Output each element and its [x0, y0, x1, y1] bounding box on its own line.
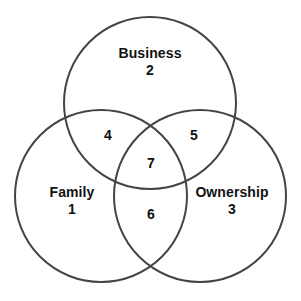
circle-business [64, 17, 236, 189]
venn-diagram: Business 2 Family 1 Ownership 3 4 5 7 6 [0, 0, 301, 301]
circle-family [15, 110, 187, 282]
circle-ownership [114, 110, 286, 282]
venn-circles-svg [0, 0, 301, 301]
